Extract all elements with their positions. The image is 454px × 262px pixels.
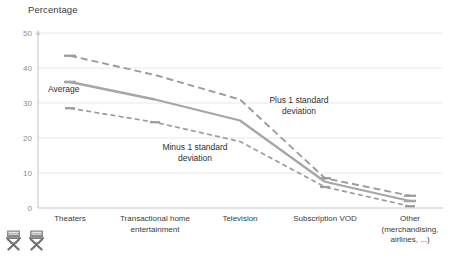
x-tick-television: Television <box>198 214 282 225</box>
axes <box>36 30 443 208</box>
y-tick-40: 40 <box>10 64 32 73</box>
x-tick-theaters: Theaters <box>28 214 112 225</box>
y-tick-30: 30 <box>10 99 32 108</box>
series-plus-one-sd <box>64 56 416 196</box>
director-chair-icon-2 <box>27 229 46 251</box>
chart-container: Percentage <box>0 0 454 262</box>
y-tick-10: 10 <box>10 169 32 178</box>
x-tick-other: Other (merchandising, airlines, ...) <box>366 214 454 246</box>
y-tick-50: 50 <box>10 29 32 38</box>
y-tick-0: 0 <box>10 204 32 213</box>
footer-icon-group <box>4 229 46 251</box>
y-tick-20: 20 <box>10 134 32 143</box>
annotation-average: Average <box>48 84 80 94</box>
x-tick-subscription-vod: Subscription VOD <box>277 214 373 225</box>
annotation-minus-sd: Minus 1 standard deviation <box>140 142 250 164</box>
x-tick-transactional: Transactional home entertainment <box>107 214 203 235</box>
annotation-plus-sd: Plus 1 standard deviation <box>247 95 351 117</box>
director-chair-icon-1 <box>4 229 23 251</box>
